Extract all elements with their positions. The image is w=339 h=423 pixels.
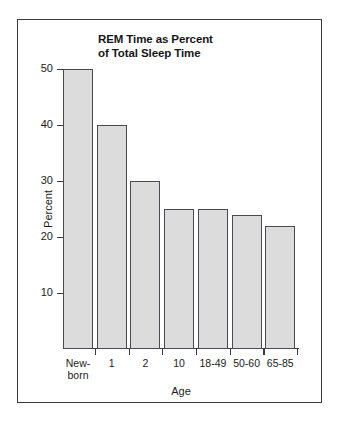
plot-area: 50 40 30 20 10 New- born 1 2 — [63, 69, 299, 349]
y-axis-title: Percent — [42, 190, 54, 228]
chart-title-line-1: REM Time as Percent — [98, 32, 298, 46]
x-tick-2 — [162, 349, 163, 355]
chart-title: REM Time as Percent of Total Sleep Time — [98, 32, 298, 60]
x-tick-4 — [230, 349, 231, 355]
x-tick-3 — [196, 349, 197, 355]
bar-newborn[interactable] — [63, 69, 93, 349]
x-tick-0 — [95, 349, 96, 355]
x-tick-6 — [297, 349, 298, 355]
x-tick-5 — [263, 349, 264, 355]
bar-10[interactable] — [164, 209, 194, 349]
bar-1[interactable] — [97, 125, 127, 349]
chart-title-line-2: of Total Sleep Time — [98, 46, 298, 60]
x-tick-1 — [129, 349, 130, 355]
bar-65-85[interactable] — [265, 226, 295, 349]
x-axis-title: Age — [63, 385, 299, 397]
x-label-65-85: 65-85 — [258, 358, 302, 370]
y-tick-label-30: 30 — [41, 174, 53, 186]
y-tick-label-20: 20 — [41, 230, 53, 242]
y-tick-label-50: 50 — [41, 62, 53, 74]
bar-50-60[interactable] — [232, 215, 262, 349]
bar-18-49[interactable] — [198, 209, 228, 349]
figure-frame: REM Time as Percent of Total Sleep Time … — [17, 19, 322, 403]
bar-2[interactable] — [130, 181, 160, 349]
y-tick-label-40: 40 — [41, 118, 53, 130]
y-tick-label-10: 10 — [41, 286, 53, 298]
